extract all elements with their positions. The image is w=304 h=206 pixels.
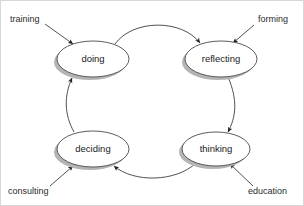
node-doing[interactable]: doing — [54, 41, 129, 80]
diagram-canvas: doing reflecting thinking deciding train… — [0, 0, 304, 206]
node-reflecting-label: reflecting — [202, 53, 241, 64]
input-label-consulting: consulting — [8, 186, 49, 196]
node-deciding-label: deciding — [75, 143, 110, 154]
node-thinking[interactable]: thinking — [179, 132, 250, 169]
edge-thinking-to-deciding — [114, 163, 196, 178]
edge-deciding-to-doing — [66, 78, 74, 132]
image-frame — [1, 1, 304, 206]
node-doing-label: doing — [81, 53, 104, 64]
connector-training-to-doing — [45, 24, 73, 44]
edge-reflecting-to-thinking — [228, 77, 235, 132]
input-label-education: education — [248, 186, 287, 196]
input-label-training: training — [10, 14, 40, 24]
node-deciding[interactable]: deciding — [54, 131, 129, 170]
input-label-forming: forming — [258, 14, 288, 24]
node-reflecting[interactable]: reflecting — [182, 41, 257, 80]
learning-cycle-diagram: doing reflecting thinking deciding train… — [0, 0, 304, 206]
connector-forming-to-reflecting — [233, 25, 254, 43]
node-thinking-label: thinking — [200, 143, 233, 154]
edge-doing-to-reflecting — [115, 25, 200, 44]
connector-consulting-to-deciding — [50, 166, 73, 186]
connector-education-to-thinking — [230, 164, 253, 186]
